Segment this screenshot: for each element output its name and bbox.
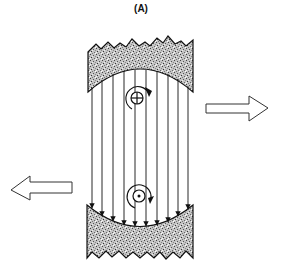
motor-field-diagram: [0, 0, 282, 264]
bottom-conductor: [127, 185, 154, 208]
right-arrow-icon: [206, 96, 268, 121]
top-conductor: [126, 87, 152, 109]
bottom-magnet: [87, 205, 193, 259]
top-magnet: [88, 36, 193, 92]
left-arrow-icon: [11, 176, 72, 200]
